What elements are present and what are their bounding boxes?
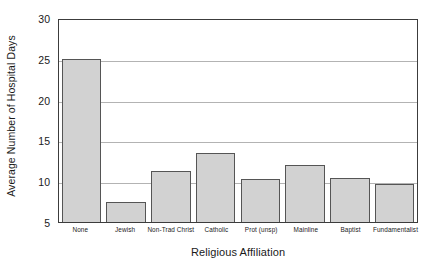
bar-series xyxy=(59,20,417,222)
bar xyxy=(375,184,414,222)
x-tick-label: Non-Trad Christ xyxy=(147,226,194,240)
bar-slot xyxy=(283,20,328,222)
x-tick-label: Fundamentalist xyxy=(373,226,418,240)
x-axis-tick-labels: NoneJewishNon-Trad ChristCatholicProt (u… xyxy=(58,226,418,240)
y-tick-label: 30 xyxy=(38,13,50,25)
plot-area xyxy=(58,19,418,223)
bar-slot xyxy=(372,20,417,222)
bar xyxy=(151,171,190,222)
x-tick-label: Prot (unsp) xyxy=(239,226,284,240)
bar xyxy=(285,165,324,222)
bar-slot xyxy=(193,20,238,222)
x-tick-label: Baptist xyxy=(328,226,373,240)
bar-slot xyxy=(149,20,194,222)
bar xyxy=(196,153,235,222)
y-axis-tick-labels: 51015202530 xyxy=(24,19,54,223)
x-axis-title: Religious Affiliation xyxy=(58,246,418,258)
x-tick-label: None xyxy=(58,226,103,240)
x-tick-label: Mainline xyxy=(284,226,329,240)
y-axis-title-text: Average Number of Hospital Days xyxy=(5,35,17,197)
bar xyxy=(330,178,369,222)
y-tick-label: 15 xyxy=(38,135,50,147)
x-tick-label: Jewish xyxy=(103,226,148,240)
bar xyxy=(241,179,280,222)
y-tick-label: 5 xyxy=(44,217,50,229)
bar-chart-figure: Average Number of Hospital Days 51015202… xyxy=(0,0,437,269)
y-axis-title: Average Number of Hospital Days xyxy=(0,0,22,232)
y-tick-label: 20 xyxy=(38,95,50,107)
x-tick-label: Catholic xyxy=(194,226,239,240)
y-tick-label: 25 xyxy=(38,54,50,66)
bar-slot xyxy=(238,20,283,222)
bar-slot xyxy=(59,20,104,222)
bar-slot xyxy=(328,20,373,222)
bar xyxy=(106,202,145,222)
y-tick-label: 10 xyxy=(38,176,50,188)
bar-slot xyxy=(104,20,149,222)
bar xyxy=(62,59,101,222)
